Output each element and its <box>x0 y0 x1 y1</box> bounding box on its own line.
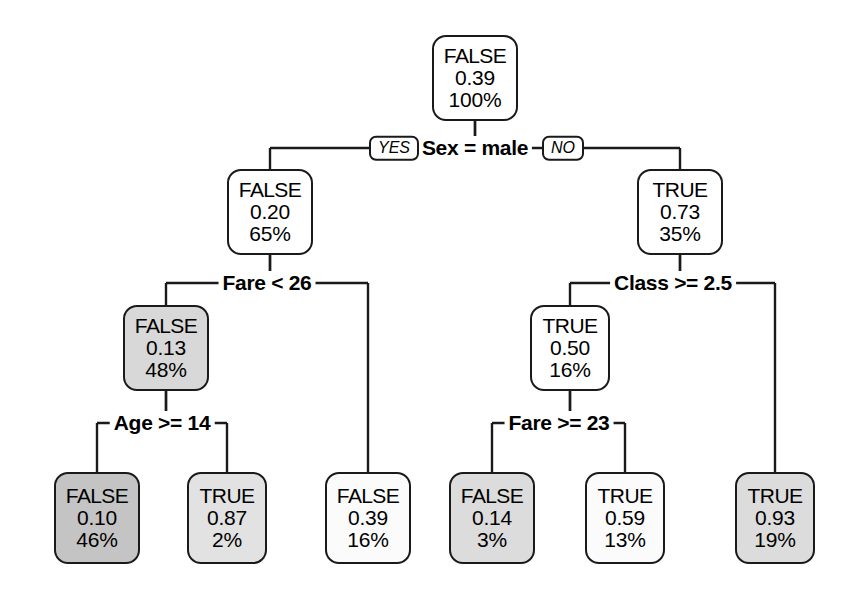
node-class-label: FALSE <box>461 485 523 507</box>
node-percent-value: 3% <box>477 529 507 551</box>
node-class-label: FALSE <box>337 485 399 507</box>
node-class-label: FALSE <box>444 45 506 67</box>
node-percent-value: 19% <box>754 529 795 551</box>
tree-leaf-node: TRUE0.5913% <box>585 472 665 564</box>
tree-internal-node: FALSE0.1348% <box>123 305 209 391</box>
split-condition-label: Sex = male <box>418 136 532 160</box>
node-percent-value: 100% <box>449 89 502 111</box>
node-class-label: TRUE <box>598 485 653 507</box>
decision-tree-figure: FALSE0.39100%FALSE0.2065%TRUE0.7335%FALS… <box>0 0 856 601</box>
split-condition-label: Class >= 2.5 <box>610 271 736 295</box>
tree-internal-node: FALSE0.2065% <box>227 169 313 255</box>
node-percent-value: 65% <box>249 223 290 245</box>
node-probability-value: 0.73 <box>660 201 700 223</box>
node-percent-value: 35% <box>659 223 700 245</box>
tree-leaf-node: FALSE0.143% <box>449 472 535 564</box>
tree-leaf-node: FALSE0.3916% <box>325 472 411 564</box>
node-class-label: TRUE <box>543 315 598 337</box>
branch-tag-yes: YES <box>369 136 419 161</box>
tree-leaf-node: FALSE0.1046% <box>54 472 140 564</box>
node-percent-value: 16% <box>549 359 590 381</box>
tree-internal-node: FALSE0.39100% <box>432 35 518 121</box>
node-class-label: FALSE <box>66 485 128 507</box>
tree-internal-node: TRUE0.5016% <box>530 305 610 391</box>
node-class-label: FALSE <box>239 179 301 201</box>
node-percent-value: 16% <box>347 529 388 551</box>
tree-leaf-node: TRUE0.872% <box>187 472 267 564</box>
node-probability-value: 0.10 <box>77 507 117 529</box>
node-percent-value: 48% <box>145 359 186 381</box>
node-percent-value: 2% <box>212 529 242 551</box>
node-percent-value: 13% <box>604 529 645 551</box>
node-probability-value: 0.39 <box>455 67 495 89</box>
node-probability-value: 0.87 <box>207 507 247 529</box>
node-probability-value: 0.14 <box>472 507 512 529</box>
tree-leaf-node: TRUE0.9319% <box>735 472 815 564</box>
node-probability-value: 0.39 <box>348 507 388 529</box>
node-class-label: TRUE <box>748 485 803 507</box>
node-probability-value: 0.13 <box>146 337 186 359</box>
node-probability-value: 0.93 <box>755 507 795 529</box>
node-class-label: TRUE <box>653 179 708 201</box>
node-class-label: FALSE <box>135 315 197 337</box>
node-percent-value: 46% <box>76 529 117 551</box>
node-probability-value: 0.20 <box>250 201 290 223</box>
node-probability-value: 0.59 <box>605 507 645 529</box>
node-class-label: TRUE <box>200 485 255 507</box>
split-condition-label: Age >= 14 <box>110 411 215 435</box>
branch-tag-no: NO <box>542 136 584 161</box>
split-condition-label: Fare >= 23 <box>505 411 614 435</box>
node-probability-value: 0.50 <box>550 337 590 359</box>
split-condition-label: Fare < 26 <box>219 271 316 295</box>
tree-internal-node: TRUE0.7335% <box>637 169 723 255</box>
